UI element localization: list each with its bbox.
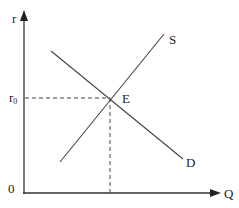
demand-label: D bbox=[186, 155, 195, 170]
x-axis-arrowhead-icon bbox=[210, 189, 221, 197]
demand-curve bbox=[51, 51, 183, 159]
supply-demand-diagram: r Q 0 r0 E S D bbox=[0, 0, 239, 208]
equilibrium-label: E bbox=[122, 91, 130, 106]
x-axis-label: Q bbox=[224, 186, 234, 201]
origin-label: 0 bbox=[8, 181, 15, 196]
r0-label-subscript: 0 bbox=[13, 97, 17, 106]
r0-label: r0 bbox=[9, 90, 17, 106]
supply-label: S bbox=[169, 32, 176, 47]
y-axis-label: r bbox=[12, 11, 17, 26]
y-axis-arrowhead-icon bbox=[20, 10, 28, 21]
